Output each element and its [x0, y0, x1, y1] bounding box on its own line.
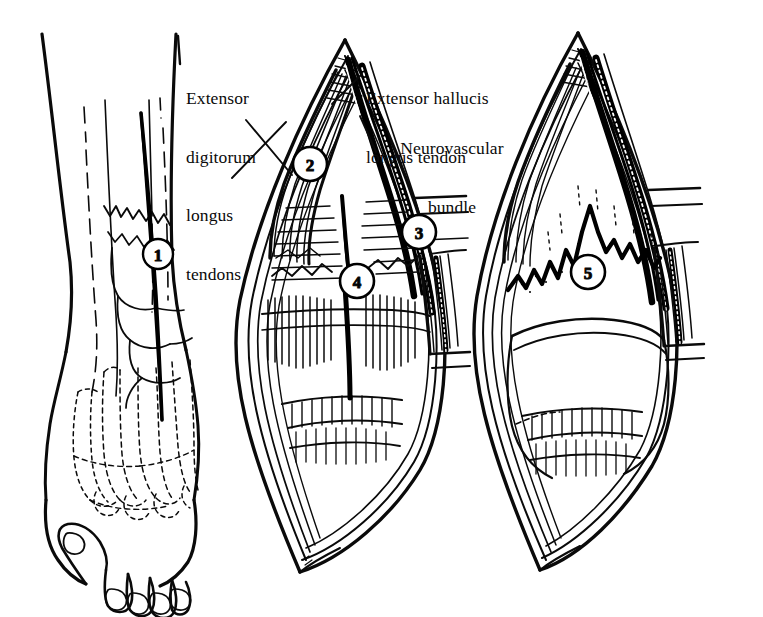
panel-foot-overview: [42, 34, 199, 617]
callout-4: 4: [340, 264, 374, 298]
label-line: bundle: [366, 198, 538, 218]
callout-1: 1: [143, 239, 173, 269]
label-neurovascular-bundle: Neurovascular bundle: [366, 100, 538, 256]
label-line: digitorum: [186, 148, 256, 168]
callout-5-label: 5: [584, 264, 593, 283]
label-line: longus: [186, 206, 256, 226]
label-extensor-digitorum-longus-tendons: Extensor digitorum longus tendons: [186, 50, 256, 323]
leader-tick-left: [178, 36, 180, 64]
callout-4-label: 4: [353, 273, 362, 292]
callout-2: 2: [293, 147, 327, 181]
callout-1-label: 1: [154, 246, 163, 265]
callout-2-label: 2: [306, 156, 315, 175]
figure-root: 1 2 3 4 5: [0, 0, 763, 617]
label-line: Extensor: [186, 89, 256, 109]
label-line: tendons: [186, 265, 256, 285]
callout-5: 5: [571, 255, 605, 289]
label-line: Neurovascular: [366, 139, 538, 159]
